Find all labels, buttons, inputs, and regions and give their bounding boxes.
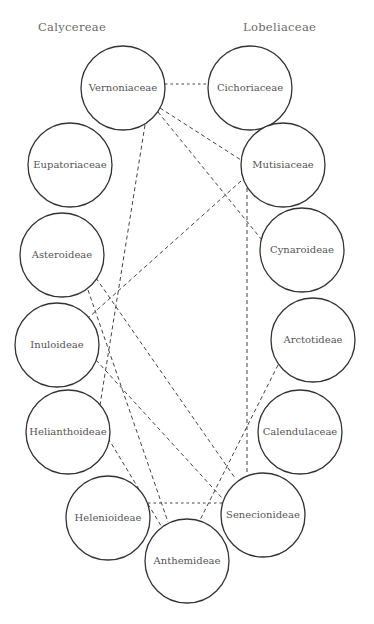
node-label: Mutisiaceae: [252, 159, 314, 170]
node-cynaroideae: Cynaroideae: [260, 208, 344, 292]
node-cichoriaceae: Cichoriaceae: [208, 46, 292, 130]
node-label: Helenioideae: [75, 512, 142, 523]
node-vernoniaceae: Vernoniaceae: [81, 46, 165, 130]
node-label: Cichoriaceae: [217, 82, 283, 93]
composite-affinity-diagram: VernoniaceaeCichoriaceaeEupatoriaceaeMut…: [0, 0, 374, 624]
node-label: Anthemideae: [153, 555, 221, 566]
node-mutisiaceae: Mutisiaceae: [241, 123, 325, 207]
node-helenioideae: Helenioideae: [66, 476, 150, 560]
node-anthemideae: Anthemideae: [145, 519, 229, 603]
node-eupatoriaceae: Eupatoriaceae: [28, 123, 112, 207]
nodes-layer: VernoniaceaeCichoriaceaeEupatoriaceaeMut…: [15, 46, 355, 603]
edge-mutisiaceae-inuloideae: [88, 181, 241, 318]
node-label: Asteroideae: [31, 249, 93, 260]
node-helianthoideae: Helianthoideae: [26, 390, 110, 474]
node-inuloideae: Inuloideae: [15, 303, 99, 387]
node-arctotideae: Arctotideae: [271, 298, 355, 382]
edge-asteroideae-senecionideae: [96, 278, 235, 478]
node-label: Cynaroideae: [270, 244, 334, 255]
group-title-left: Calycereae: [38, 20, 106, 34]
node-label: Helianthoideae: [29, 426, 106, 437]
node-label: Vernoniaceae: [88, 82, 158, 93]
node-asteroideae: Asteroideae: [20, 213, 104, 297]
node-label: Arctotideae: [282, 334, 342, 345]
node-label: Inuloideae: [30, 339, 84, 350]
group-title-right: Lobeliaceae: [243, 20, 316, 34]
node-senecionideae: Senecionideae: [221, 473, 305, 557]
node-label: Eupatoriaceae: [33, 159, 107, 170]
node-label: Calendulaceae: [263, 426, 338, 437]
node-label: Senecionideae: [226, 509, 300, 520]
node-calendulaceae: Calendulaceae: [258, 390, 342, 474]
